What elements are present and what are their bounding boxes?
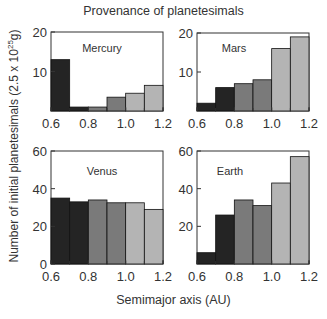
- histogram-bar: [126, 203, 145, 264]
- x-tick-label: 0.8: [225, 116, 243, 131]
- panel-label: Mars: [222, 42, 247, 54]
- x-tick-label: 0.6: [42, 116, 60, 131]
- histogram-bar: [144, 209, 163, 264]
- panel-mars: 0.60.81.01.21020Mars: [179, 26, 319, 131]
- histogram-bar: [272, 49, 291, 111]
- panel-label: Venus: [87, 165, 118, 177]
- panel-grid: 0.60.81.01.21020Mercury0.60.81.01.21020M…: [0, 0, 327, 319]
- y-tick-label: 40: [33, 182, 47, 197]
- x-tick-label: 1.2: [154, 116, 172, 131]
- histogram-bar: [51, 198, 70, 264]
- x-tick-label: 1.0: [263, 269, 281, 284]
- histogram-bar: [70, 202, 89, 264]
- x-tick-label: 0.6: [188, 269, 206, 284]
- histogram-bar: [88, 107, 107, 111]
- y-tick-label: 20: [179, 26, 193, 41]
- y-tick-label: 40: [179, 182, 193, 197]
- y-tick-label: 10: [33, 65, 47, 80]
- histogram-bar: [253, 80, 272, 111]
- histogram-bar: [272, 183, 291, 264]
- x-tick-label: 1.0: [117, 269, 135, 284]
- histogram-bar: [197, 103, 216, 111]
- panel-earth: 0.60.81.01.2204060Earth: [179, 144, 319, 284]
- histogram-bar: [290, 157, 309, 264]
- x-tick-label: 0.8: [79, 269, 97, 284]
- histogram-bar: [51, 60, 70, 111]
- x-tick-label: 1.2: [300, 116, 318, 131]
- panel-label: Mercury: [82, 42, 122, 54]
- histogram-bar: [216, 215, 235, 264]
- x-tick-label: 1.0: [117, 116, 135, 131]
- histogram-bar: [107, 203, 126, 264]
- y-tick-label: 60: [179, 144, 193, 159]
- x-tick-label: 1.2: [300, 269, 318, 284]
- histogram-bar: [253, 206, 272, 264]
- panel-venus: 0.60.81.01.20204060Venus: [33, 144, 173, 284]
- x-tick-label: 0.8: [225, 269, 243, 284]
- histogram-bar: [107, 97, 126, 111]
- x-tick-label: 0.8: [79, 116, 97, 131]
- y-tick-label: 20: [179, 219, 193, 234]
- x-tick-label: 1.0: [263, 116, 281, 131]
- histogram-bar: [216, 88, 235, 111]
- histogram-bar: [234, 84, 253, 111]
- panel-label: Earth: [217, 165, 243, 177]
- histogram-bar: [234, 200, 253, 264]
- panel-mercury: 0.60.81.01.21020Mercury: [33, 25, 173, 131]
- x-tick-label: 0.6: [188, 116, 206, 131]
- histogram-bar: [144, 85, 163, 111]
- y-tick-label: 20: [33, 219, 47, 234]
- y-tick-label: 60: [33, 144, 47, 159]
- histogram-bar: [88, 200, 107, 264]
- histogram-bar: [70, 107, 89, 111]
- y-tick-label: 0: [40, 257, 47, 272]
- y-tick-label: 10: [179, 65, 193, 80]
- x-tick-label: 1.2: [154, 269, 172, 284]
- histogram-bar: [197, 253, 216, 264]
- y-tick-label: 20: [33, 25, 47, 40]
- histogram-bar: [126, 93, 145, 111]
- histogram-bar: [290, 37, 309, 111]
